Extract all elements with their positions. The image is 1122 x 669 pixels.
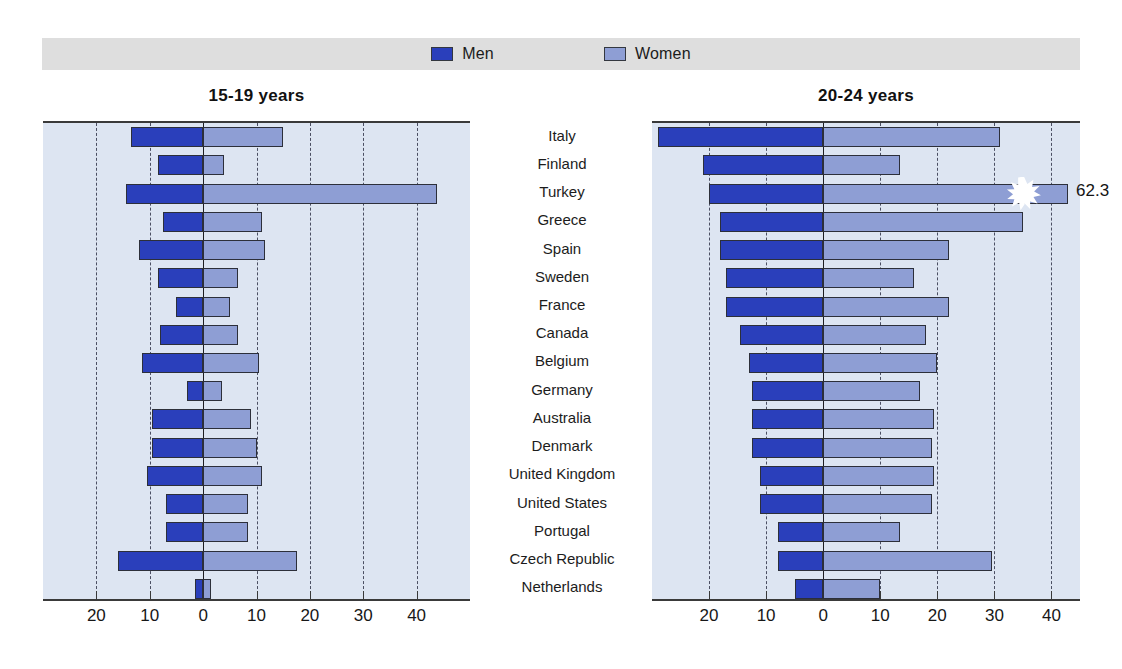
- category-label: France: [474, 290, 650, 318]
- bar-men: [139, 240, 203, 260]
- bar-women: [823, 438, 931, 458]
- category-label: Belgium: [474, 347, 650, 375]
- legend-swatch-women-icon: [604, 47, 626, 61]
- bar-men: [795, 579, 824, 599]
- bar-women: [823, 268, 914, 288]
- bar-men: [760, 466, 823, 486]
- chart-bar-row: [43, 325, 470, 345]
- bar-women: [203, 579, 211, 599]
- bar-men: [147, 466, 203, 486]
- bar-women: [823, 466, 934, 486]
- bar-women: [823, 155, 900, 175]
- axis-tick-label: 10: [871, 606, 890, 626]
- chart-page: Men Women 15-19 years 20-24 years 201001…: [0, 0, 1122, 669]
- bar-women: [203, 438, 256, 458]
- chart-bar-row: [652, 212, 1080, 232]
- bar-men: [709, 184, 823, 204]
- bar-men: [703, 155, 823, 175]
- chart-bar-row: [43, 466, 470, 486]
- chart-bar-row: [652, 466, 1080, 486]
- x-axis-right: 2010010203040: [652, 606, 1080, 632]
- chart-bar-row: [652, 325, 1080, 345]
- chart-bar-row: [43, 127, 470, 147]
- bar-men: [720, 240, 823, 260]
- category-label: United States: [474, 488, 650, 516]
- bar-men: [142, 353, 203, 373]
- bar-men: [726, 268, 823, 288]
- bar-women: [823, 325, 926, 345]
- chart-bar-row: [652, 522, 1080, 542]
- chart-bar-row: [43, 184, 470, 204]
- legend-swatch-men-icon: [431, 47, 453, 61]
- chart-bar-row: [43, 494, 470, 514]
- bar-men: [158, 155, 203, 175]
- legend-label-women: Women: [635, 45, 691, 63]
- axis-tick-label: 20: [700, 606, 719, 626]
- category-label: Czech Republic: [474, 545, 650, 573]
- x-axis-left: 2010010203040: [43, 606, 470, 632]
- chart-bar-row: [652, 353, 1080, 373]
- chart-bar-row: [43, 268, 470, 288]
- bar-men: [166, 522, 203, 542]
- chart-bar-row: [43, 381, 470, 401]
- bar-women: [823, 297, 949, 317]
- bar-women: [203, 409, 251, 429]
- chart-bar-row: [43, 579, 470, 599]
- chart-bar-row: [652, 155, 1080, 175]
- bar-women: [823, 551, 991, 571]
- chart-bar-row: [652, 409, 1080, 429]
- chart-plot-15-19: [43, 121, 470, 601]
- bar-men: [752, 409, 823, 429]
- category-label: Canada: [474, 319, 650, 347]
- bar-men: [749, 353, 823, 373]
- bar-women: [203, 353, 259, 373]
- category-label: Denmark: [474, 432, 650, 460]
- chart-bar-row: [652, 438, 1080, 458]
- category-label: Greece: [474, 206, 650, 234]
- bar-women: [203, 127, 283, 147]
- category-label: Germany: [474, 375, 650, 403]
- axis-tick-label: 20: [300, 606, 319, 626]
- axis-tick-label: 40: [407, 606, 426, 626]
- chart-bar-row: [652, 127, 1080, 147]
- bar-women: [823, 409, 934, 429]
- chart-plot-20-24: [652, 121, 1080, 601]
- axis-tick-label: 0: [198, 606, 207, 626]
- axis-tick-label: 20: [87, 606, 106, 626]
- axis-tick-label: 40: [1042, 606, 1061, 626]
- bar-men: [131, 127, 203, 147]
- bar-men: [752, 381, 823, 401]
- bar-women: [203, 155, 224, 175]
- bar-women: [203, 494, 248, 514]
- bar-men: [152, 438, 203, 458]
- axis-tick-label: 20: [928, 606, 947, 626]
- bar-women: [203, 240, 264, 260]
- bar-women: [823, 353, 937, 373]
- bar-women: [203, 551, 296, 571]
- bar-women: [203, 381, 222, 401]
- category-label: Turkey: [474, 177, 650, 205]
- bar-men: [778, 522, 824, 542]
- chart-bar-row: [43, 438, 470, 458]
- bar-men: [118, 551, 203, 571]
- bar-women: [203, 212, 262, 232]
- bar-men: [163, 212, 203, 232]
- panel-title-right: 20-24 years: [652, 86, 1080, 106]
- bar-men: [160, 325, 203, 345]
- category-label: Australia: [474, 403, 650, 431]
- bar-women: [823, 579, 880, 599]
- legend: Men Women: [42, 38, 1080, 70]
- bar-women: [823, 522, 900, 542]
- bar-men: [778, 551, 824, 571]
- bar-men: [158, 268, 203, 288]
- bar-women: [203, 325, 238, 345]
- category-label-column: ItalyFinlandTurkeyGreeceSpainSwedenFranc…: [474, 121, 650, 601]
- bar-women: [203, 466, 262, 486]
- bar-men: [752, 438, 823, 458]
- legend-entry-men: Men: [431, 45, 494, 63]
- category-label: Spain: [474, 234, 650, 262]
- axis-tick-label: 30: [985, 606, 1004, 626]
- chart-bar-row: [652, 551, 1080, 571]
- legend-entry-women: Women: [604, 45, 691, 63]
- chart-bar-row: [652, 494, 1080, 514]
